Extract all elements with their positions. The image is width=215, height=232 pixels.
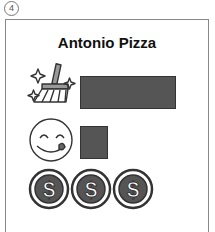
restaurant-card: Antonio Pizza $	[5, 19, 209, 232]
figure-number: 4	[4, 1, 19, 16]
dollar-coin-icon: $	[112, 168, 154, 210]
yummy-face-icon	[28, 116, 76, 164]
dollar-coin-icon: $	[70, 168, 112, 210]
taste-bar	[80, 126, 108, 159]
cleanliness-bar	[80, 76, 176, 109]
restaurant-title: Antonio Pizza	[6, 34, 208, 51]
svg-text:$: $	[85, 177, 97, 202]
svg-text:$: $	[127, 177, 139, 202]
broom-sparkle-icon	[26, 62, 76, 104]
price-coins: $ $ $	[28, 168, 158, 210]
svg-text:$: $	[43, 177, 55, 202]
dollar-coin-icon: $	[28, 168, 70, 210]
